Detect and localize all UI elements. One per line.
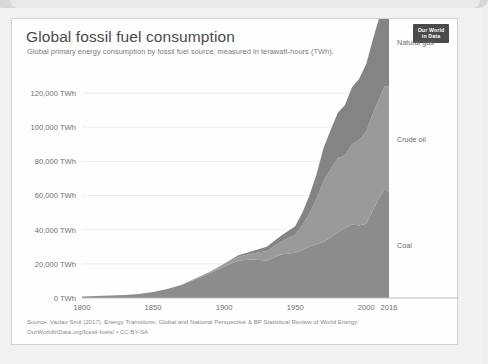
chart-source-note: Source: Vaclav Smil (2017). Energy Trans…	[27, 318, 357, 325]
series-label-crude-oil: Crude oil	[397, 135, 426, 144]
y-tick-label: 20,000 TWh	[35, 260, 76, 269]
area-series-group	[82, 19, 389, 298]
y-tick-label: 0 TWh	[54, 294, 76, 303]
y-axis-tick-labels: 0 TWh20,000 TWh40,000 TWh60,000 TWh80,00…	[31, 89, 76, 303]
y-tick-label: 100,000 TWh	[31, 123, 76, 132]
x-axis-tick-labels: 180018501900195020002016	[74, 303, 398, 312]
page-edge-artifact-inner	[10, 0, 480, 8]
stacked-area-chart: 0 TWh20,000 TWh40,000 TWh60,000 TWh80,00…	[12, 19, 459, 346]
y-tick-label: 80,000 TWh	[35, 157, 76, 166]
y-tick-label: 60,000 TWh	[35, 191, 76, 200]
y-tick-label: 40,000 TWh	[35, 226, 76, 235]
chart-plot-area: 0 TWh20,000 TWh40,000 TWh60,000 TWh80,00…	[12, 19, 459, 346]
series-label-natural-gas: Natural gas	[397, 38, 434, 47]
series-label-coal: Coal	[397, 241, 412, 250]
x-tick-label: 1950	[287, 303, 304, 312]
x-tick-label: 1850	[145, 303, 162, 312]
y-tick-label: 120,000 TWh	[31, 89, 76, 98]
series-inline-labels: CoalCrude oilNatural gas	[397, 38, 434, 250]
x-tick-label: 1900	[216, 303, 233, 312]
x-tick-label: 2016	[381, 303, 398, 312]
x-tick-label: 2000	[358, 303, 375, 312]
chart-card: Global fossil fuel consumption Global pr…	[11, 18, 458, 345]
x-tick-label: 1800	[74, 303, 91, 312]
chart-license-note[interactable]: OurWorldInData.org/fossil-fuels/ • CC BY…	[27, 328, 148, 335]
